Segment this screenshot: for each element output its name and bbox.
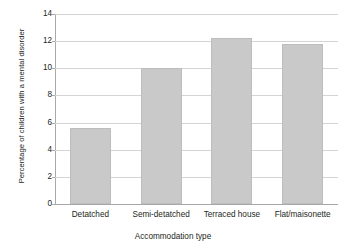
x-axis-line	[55, 204, 338, 205]
y-axis-tick-label: 6	[12, 119, 52, 127]
gridline	[55, 14, 338, 15]
y-axis-tick-label: 8	[12, 91, 52, 99]
gridline	[55, 41, 338, 42]
y-axis-tick-label: 14	[12, 10, 52, 18]
plot-area	[55, 14, 338, 204]
x-axis-tick-label: Semi-detatched	[126, 210, 197, 220]
bar	[211, 38, 252, 204]
y-axis-tick-label: 10	[12, 64, 52, 72]
bar	[282, 44, 323, 204]
bar	[70, 128, 111, 204]
bar	[141, 68, 182, 204]
bar-chart: Percentage of children with a mental dis…	[0, 0, 346, 250]
x-axis-tick-label: Flat/maisonette	[267, 210, 338, 220]
y-axis-tick-label: 0	[12, 200, 52, 208]
y-axis-tick-label: 4	[12, 146, 52, 154]
x-axis-tick-label: Detatched	[55, 210, 126, 220]
x-axis-title: Accommodation type	[0, 232, 346, 242]
y-axis-tick-label: 12	[12, 37, 52, 45]
y-axis-tick-label: 2	[12, 173, 52, 181]
x-axis-tick-label: Terraced house	[197, 210, 268, 220]
